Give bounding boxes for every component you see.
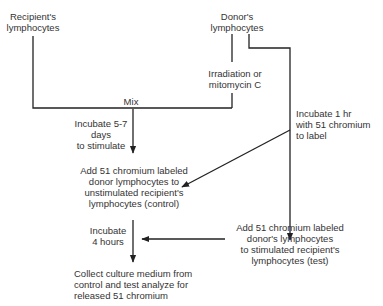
mix-label: Mix bbox=[120, 96, 142, 107]
text-line: 4 hours bbox=[88, 236, 128, 247]
text-line: Incubate bbox=[88, 225, 128, 236]
text-line: lymphocytes (control) bbox=[73, 198, 195, 209]
text-line: control and test analyze for bbox=[74, 279, 204, 290]
collect-step-label: Collect culture medium from control and … bbox=[74, 268, 204, 301]
text-line: to stimulate bbox=[72, 140, 130, 151]
donor-lymphocytes-label: Donor's lymphocytes bbox=[202, 11, 272, 33]
text-line: Donor's bbox=[202, 11, 272, 22]
text-line: lymphocytes bbox=[202, 22, 272, 33]
diagonal-to-control-arrow bbox=[182, 130, 290, 187]
incubate-4h-label: Incubate 4 hours bbox=[88, 225, 128, 247]
text-line: lymphocytes bbox=[3, 22, 63, 33]
text-line: to stimulated recipient's bbox=[229, 244, 351, 255]
text-line: days bbox=[72, 129, 130, 140]
text-line: lymphocytes (test) bbox=[229, 255, 351, 266]
text-line: Collect culture medium from bbox=[74, 268, 204, 279]
text-line: Add 51 chromium labeled bbox=[229, 222, 351, 233]
control-step-label: Add 51 chromium labeled donor lymphocyte… bbox=[73, 165, 195, 209]
donor-label-branch-line bbox=[249, 34, 290, 240]
text-line: Incubate 5-7 bbox=[72, 118, 130, 129]
incubate-stimulate-label: Incubate 5-7 days to stimulate bbox=[72, 118, 130, 151]
irradiation-label: Irradiation or mitomycin C bbox=[201, 68, 269, 90]
text-line: to label bbox=[296, 130, 381, 141]
text-line: Add 51 chromium labeled bbox=[73, 165, 195, 176]
text-line: Incubate 1 hr bbox=[296, 108, 381, 119]
text-line: released 51 chromium bbox=[74, 290, 204, 301]
recipient-lymphocytes-label: Recipient's lymphocytes bbox=[3, 11, 63, 33]
text-line: donor lymphocytes to bbox=[73, 176, 195, 187]
text-line: Irradiation or bbox=[201, 68, 269, 79]
text-line: with 51 chromium bbox=[296, 119, 381, 130]
incubate-label-label: Incubate 1 hr with 51 chromium to label bbox=[296, 108, 381, 141]
test-step-label: Add 51 chromium labeled donor's lymphocy… bbox=[229, 222, 351, 266]
text-line: donor's lymphocytes bbox=[229, 233, 351, 244]
text-line: unstimulated recipient's bbox=[73, 187, 195, 198]
text-line: Recipient's bbox=[3, 11, 63, 22]
text-line: mitomycin C bbox=[201, 79, 269, 90]
